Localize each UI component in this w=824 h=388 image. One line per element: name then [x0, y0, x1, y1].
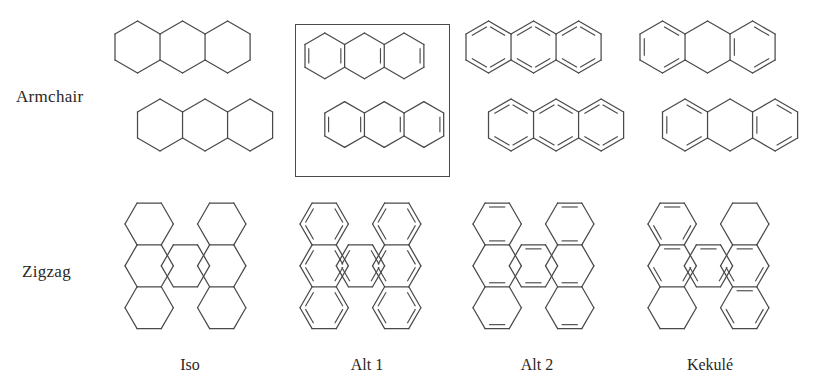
- structure-armchair-alt2: [463, 18, 627, 154]
- row-label-zigzag: Zigzag: [22, 262, 71, 282]
- figure-canvas: Armchair Zigzag Iso Alt 1 Alt 2 Kekulé: [0, 0, 824, 388]
- column-label-iso: Iso: [105, 356, 275, 374]
- structure-armchair-iso: [112, 18, 276, 154]
- row-label-armchair: Armchair: [16, 87, 84, 107]
- column-label-alt1: Alt 1: [282, 356, 452, 374]
- highlight-box-armchair-alt1: [295, 24, 450, 177]
- structure-zigzag-iso: [122, 200, 249, 332]
- column-label-kekule: Kekulé: [625, 356, 795, 374]
- structure-zigzag-alt1: [297, 200, 424, 332]
- structure-zigzag-kekule: [645, 200, 772, 332]
- structure-zigzag-alt2: [470, 200, 597, 332]
- column-label-alt2: Alt 2: [452, 356, 622, 374]
- structure-armchair-kekule: [637, 18, 801, 154]
